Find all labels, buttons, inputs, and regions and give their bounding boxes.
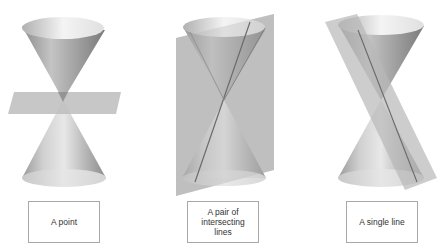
double-cone-vertical-plane-icon: [150, 0, 300, 200]
label-box-point: A point: [28, 201, 100, 243]
double-cone-tangent-plane-icon: [300, 0, 447, 200]
label-point: A point: [51, 217, 77, 227]
label-box-single-line: A single line: [346, 201, 418, 243]
label-box-intersecting-lines: A pair of intersecting lines: [187, 201, 259, 243]
label-intersecting-lines: A pair of intersecting lines: [201, 207, 244, 237]
figure-point: [0, 0, 150, 200]
figure-single-line: [300, 0, 447, 200]
figure-intersecting-lines: [150, 0, 300, 200]
label-single-line: A single line: [359, 217, 404, 227]
double-cone-horizontal-plane-icon: [0, 0, 150, 200]
